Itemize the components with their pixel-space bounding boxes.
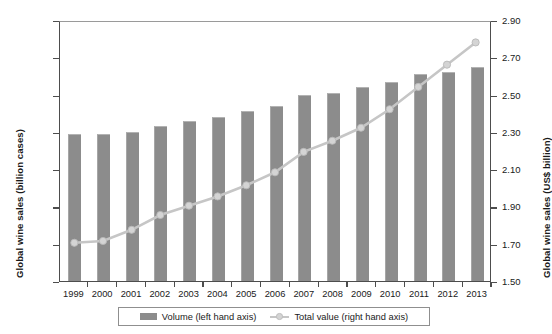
y-axis-right-title: Global wine sales (US$ billion) [541, 137, 552, 278]
y-axis-right-tick-mark [491, 96, 497, 97]
legend-item-volume: Volume (left hand axis) [140, 312, 257, 322]
bar-series [60, 22, 490, 281]
y-axis-right-tick-label: 1.50 [502, 277, 521, 287]
x-axis-tick-label: 2005 [230, 289, 262, 299]
x-axis-tick-mark [346, 282, 347, 287]
bar [212, 117, 225, 281]
plot-area [59, 21, 491, 282]
x-axis-tick-mark [375, 282, 376, 287]
x-axis-tick-label: 2003 [173, 289, 205, 299]
bar [327, 93, 340, 281]
x-axis-tick-mark [145, 282, 146, 287]
bar [126, 132, 139, 281]
x-axis-tick-label: 2008 [317, 289, 349, 299]
y-axis-right-tick-label: 2.50 [502, 91, 521, 101]
bar [183, 121, 196, 281]
x-axis-tick-mark [87, 282, 88, 287]
x-axis-tick-label: 2009 [345, 289, 377, 299]
bar [97, 134, 110, 281]
x-axis-tick-label: 2012 [432, 289, 464, 299]
bar [385, 82, 398, 281]
x-axis-tick-mark [490, 282, 491, 287]
y-axis-right-tick-label: 1.70 [502, 240, 521, 250]
legend-item-total-value: Total value (right hand axis) [270, 312, 408, 322]
x-axis-tick-label: 2013 [461, 289, 493, 299]
legend-label-volume: Volume (left hand axis) [162, 312, 257, 322]
x-axis-tick-mark [231, 282, 232, 287]
x-axis-tick-label: 2011 [403, 289, 435, 299]
x-axis-tick-label: 2000 [86, 289, 118, 299]
y-axis-right-tick-mark [491, 170, 497, 171]
y-axis-right-tick-mark [491, 21, 497, 22]
x-axis-tick-mark [318, 282, 319, 287]
y-axis-left-title: Global wine sales (billion cases) [14, 129, 25, 278]
y-axis-right-tick-label: 1.90 [502, 202, 521, 212]
y-axis-right-tick-label: 2.70 [502, 53, 521, 63]
y-axis-right-tick-mark [491, 245, 497, 246]
bar [154, 126, 167, 281]
y-axis-right-tick-mark [491, 58, 497, 59]
y-axis-left-tick-mark [53, 282, 59, 283]
bar [270, 106, 283, 281]
x-axis-tick-mark [202, 282, 203, 287]
x-axis-tick-mark [289, 282, 290, 287]
bar [241, 111, 254, 281]
bar [356, 87, 369, 281]
y-axis-right-tick-label: 2.10 [502, 165, 521, 175]
x-axis-tick-label: 2010 [374, 289, 406, 299]
x-axis-tick-mark [404, 282, 405, 287]
x-axis-tick-label: 2006 [259, 289, 291, 299]
bar [68, 134, 81, 281]
line-marker-swatch-icon [270, 312, 289, 321]
y-axis-right-tick-mark [491, 207, 497, 208]
bar [414, 74, 427, 281]
chart-legend: Volume (left hand axis) Total value (rig… [118, 307, 430, 326]
bar [471, 67, 484, 281]
x-axis-tick-label: 2002 [144, 289, 176, 299]
y-axis-right-tick-mark [491, 282, 497, 283]
x-axis-tick-label: 1999 [57, 289, 89, 299]
bar [298, 95, 311, 281]
y-axis-right-tick-label: 2.90 [502, 16, 521, 26]
x-axis-tick-mark [116, 282, 117, 287]
bar [442, 72, 455, 281]
x-axis-tick-mark [433, 282, 434, 287]
x-axis-tick-mark [260, 282, 261, 287]
x-axis-tick-mark [462, 282, 463, 287]
x-axis-tick-label: 2004 [201, 289, 233, 299]
x-axis-tick-label: 2007 [288, 289, 320, 299]
bar-swatch-icon [140, 313, 157, 320]
x-axis-tick-mark [174, 282, 175, 287]
x-axis-tick-label: 2001 [115, 289, 147, 299]
y-axis-right-tick-mark [491, 133, 497, 134]
legend-label-total-value: Total value (right hand axis) [294, 312, 408, 322]
y-axis-right-tick-label: 2.30 [502, 128, 521, 138]
